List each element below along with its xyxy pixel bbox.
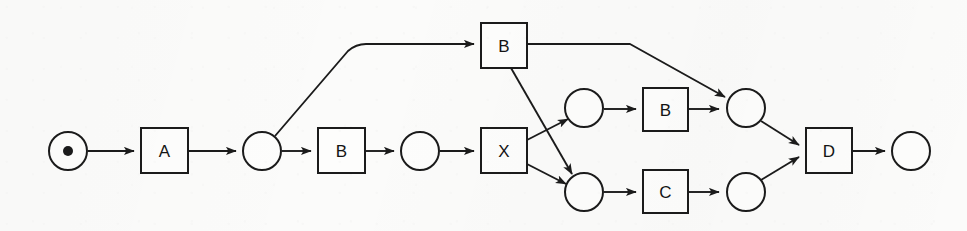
transition-a[interactable]: A — [141, 128, 188, 173]
transition-a-label: A — [159, 142, 171, 161]
place-2[interactable] — [401, 132, 439, 170]
end-place[interactable] — [892, 132, 930, 170]
place-3-upper-circle — [565, 89, 603, 127]
petri-net-diagram: ABBXBCD — [0, 0, 967, 231]
transition-d[interactable]: D — [806, 128, 852, 173]
transition-b-upper[interactable]: B — [643, 88, 688, 131]
arc-x-to-place4 — [527, 164, 566, 184]
arc-place1-to-btop — [275, 44, 474, 136]
transition-x[interactable]: X — [481, 128, 527, 173]
transition-b-top-label: B — [498, 37, 510, 56]
start-place[interactable] — [49, 132, 87, 170]
place-6-lower[interactable] — [727, 173, 765, 211]
arc-btop-to-place5 — [527, 44, 725, 97]
transition-b-upper-label: B — [660, 101, 672, 120]
place-5-upper-circle — [727, 89, 765, 127]
end-place-circle — [892, 132, 930, 170]
place-6-lower-circle — [727, 173, 765, 211]
place-4-lower[interactable] — [565, 173, 603, 211]
transition-b-main[interactable]: B — [318, 128, 365, 173]
transition-b-main-label: B — [336, 142, 348, 161]
place-1[interactable] — [243, 132, 281, 170]
transition-d-label: D — [823, 142, 836, 161]
place-5-upper[interactable] — [727, 89, 765, 127]
transition-x-label: X — [498, 142, 510, 161]
arc-place6-to-d — [761, 157, 799, 180]
token-dot-icon — [63, 146, 73, 156]
place-2-circle — [401, 132, 439, 170]
arc-place5-to-d — [761, 121, 799, 145]
petri-net-canvas: ABBXBCD — [0, 0, 967, 231]
place-3-upper[interactable] — [565, 89, 603, 127]
node-layer: ABBXBCD — [49, 23, 930, 213]
place-4-lower-circle — [565, 173, 603, 211]
arc-x-to-place3 — [527, 119, 568, 140]
transition-b-top[interactable]: B — [481, 23, 527, 68]
transition-c-lower-label: C — [659, 183, 672, 202]
transition-c-lower[interactable]: C — [643, 170, 688, 213]
place-1-circle — [243, 132, 281, 170]
